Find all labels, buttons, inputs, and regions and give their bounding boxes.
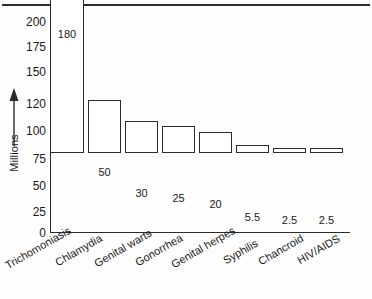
bar-value-label: 5.5 <box>236 212 269 223</box>
x-tick-label-syphilis: Syphilis <box>221 237 260 266</box>
bar-syphilis <box>236 145 269 153</box>
bar-chlamydia <box>88 100 121 153</box>
x-axis-tick-labels: Trichomoniasis Chlamydia Genital warts G… <box>0 238 372 299</box>
y-tick-label: 175 <box>12 41 46 53</box>
y-tick-label: 75 <box>12 153 46 165</box>
bar-trichomoniasis <box>50 0 84 153</box>
y-tick-label: 50 <box>12 180 46 192</box>
bar-value-label: 50 <box>88 167 121 178</box>
bar-value-label: 2.5 <box>273 215 306 226</box>
y-tick-label: 150 <box>12 66 46 78</box>
bar-chart-figure: Millions 200 175 150 120 100 75 50 25 0 … <box>0 0 372 299</box>
bar-chancroid <box>273 148 306 153</box>
y-tick-label: 200 <box>12 16 46 28</box>
y-tick-label: 120 <box>12 98 46 110</box>
bar-value-label: 2.5 <box>310 215 343 226</box>
bar-value-label: 30 <box>125 188 158 199</box>
y-tick-label: 100 <box>12 125 46 137</box>
bar-hiv-aids <box>310 148 343 153</box>
y-axis-tick-labels: 200 175 150 120 100 75 50 25 0 <box>10 0 46 240</box>
bar-value-label: 20 <box>199 199 232 210</box>
bar-value-label: 25 <box>162 193 195 204</box>
bar-genital-herpes <box>199 132 232 153</box>
y-tick-label: 25 <box>12 206 46 218</box>
bar-value-label: 180 <box>50 29 84 40</box>
bar-genital-warts <box>125 121 158 153</box>
bar-gonorrhea <box>162 126 195 153</box>
plot-area: 180 50 30 25 20 5.5 2.5 2.5 <box>50 14 360 234</box>
